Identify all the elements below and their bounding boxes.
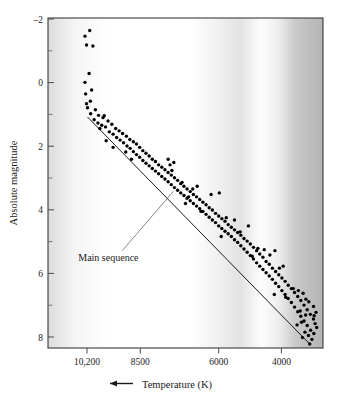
data-point [128,147,131,150]
data-point [280,289,283,292]
data-point [97,114,100,117]
chart-canvas: –2 0 2 4 6 8 Absolute magnitude 10,200 8… [0,0,338,405]
data-point [157,163,160,166]
data-point [312,317,315,320]
data-point [314,311,317,314]
data-point [85,102,88,105]
data-point [163,177,166,180]
data-point [233,218,236,221]
data-point [86,106,89,109]
data-point [104,125,107,128]
data-point [117,129,120,132]
data-point [141,149,144,152]
y-tick-label-2: 2 [38,142,43,152]
data-point [90,88,93,91]
x-axis-title: Temperature (K) [142,379,213,391]
data-point [299,315,302,318]
data-point [247,224,250,227]
data-point [166,171,169,174]
data-point [274,282,277,285]
data-point [218,191,221,194]
data-point [277,273,280,276]
data-point [306,308,309,311]
data-point [195,204,198,207]
data-point [132,150,135,153]
data-point [179,191,182,194]
y-tick-label-1: 0 [38,78,43,88]
data-point [199,210,202,213]
data-point [249,254,252,257]
data-point [312,332,315,335]
data-point [281,264,284,267]
data-point [170,173,173,176]
data-point [223,220,226,223]
x-tick-label-1: 8500 [131,357,150,367]
data-point [296,295,299,298]
data-point [293,305,296,308]
left-arrow-icon [110,381,133,387]
data-point [132,140,135,143]
data-point [297,289,300,292]
data-point [310,338,313,341]
x-axis-ticks [87,348,281,354]
data-point [233,228,236,231]
data-point [239,233,242,236]
data-point [217,214,220,217]
data-point [278,266,281,269]
data-point [287,297,290,300]
data-point [209,193,212,196]
data-point [208,216,211,219]
data-point [154,169,157,172]
data-point [204,213,207,216]
data-point [114,127,117,130]
data-point [110,123,113,126]
data-point [274,270,277,273]
data-point [303,330,306,333]
data-point [184,202,187,205]
data-point [187,195,190,198]
data-point [302,303,305,306]
data-point [182,194,185,197]
data-point [280,276,283,279]
data-point [198,198,201,201]
data-point [128,138,131,141]
data-point [170,169,173,172]
data-point [135,153,138,156]
data-point [138,146,141,149]
data-point [304,297,307,300]
data-point [261,268,264,271]
data-point [83,34,86,37]
x-tick-label-2: 6000 [209,357,228,367]
data-point [249,242,252,245]
data-point [264,271,267,274]
plot-background [48,18,323,348]
data-point [242,247,245,250]
data-point [309,328,312,331]
data-point [121,132,124,135]
data-point [96,121,99,124]
data-point [89,99,92,102]
data-point [189,199,192,202]
data-point [201,200,204,203]
data-point [176,189,179,192]
data-point [108,130,111,133]
data-point [258,264,261,267]
data-point [273,249,276,252]
data-point [144,152,147,155]
data-point [268,253,271,256]
data-point [301,292,304,295]
data-point [160,175,163,178]
data-point [271,266,274,269]
data-point [100,124,103,127]
data-point [283,293,286,296]
y-tick-label-4: 6 [38,269,43,279]
data-point [299,299,302,302]
data-point [85,43,88,46]
data-point [176,179,179,182]
data-point [92,118,95,121]
data-point [135,142,138,145]
data-point [147,164,150,167]
data-point [306,324,309,327]
data-point [238,230,241,233]
data-point [173,176,176,179]
